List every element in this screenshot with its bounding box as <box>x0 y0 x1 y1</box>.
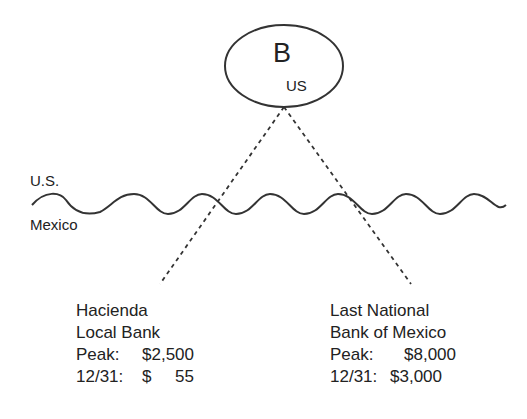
year-end-row: 12/31: $ 55 <box>76 366 194 388</box>
year-end-row: 12/31: $3,000 <box>330 366 456 388</box>
year-end-value: $3,000 <box>390 366 442 388</box>
peak-value: $2,500 <box>142 344 194 366</box>
bank-name-line1: Last National <box>330 300 456 322</box>
year-end-label: 12/31: <box>330 366 390 388</box>
bank-last-national: Last National Bank of Mexico Peak: $8,00… <box>330 300 456 388</box>
bank-hacienda: Hacienda Local Bank Peak: $2,500 12/31: … <box>76 300 194 388</box>
peak-row: Peak: $2,500 <box>76 344 194 366</box>
entity-letter: B <box>273 38 291 69</box>
border-wave <box>32 194 506 214</box>
border-label-mexico: Mexico <box>30 216 78 233</box>
entity-location: US <box>286 77 307 94</box>
peak-value: $8,000 <box>404 344 456 366</box>
bank-name-line1: Hacienda <box>76 300 194 322</box>
peak-label: Peak: <box>76 344 142 366</box>
bank-name-line2: Bank of Mexico <box>330 322 456 344</box>
bank-name-line2: Local Bank <box>76 322 194 344</box>
year-end-label: 12/31: <box>76 366 142 388</box>
peak-label: Peak: <box>330 344 404 366</box>
peak-row: Peak: $8,000 <box>330 344 456 366</box>
year-end-value: $ 55 <box>142 366 194 388</box>
border-label-us: U.S. <box>30 172 59 189</box>
